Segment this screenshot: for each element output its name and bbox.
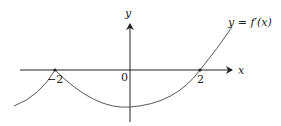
derivative-curve — [14, 27, 232, 107]
graph: y x −2 0 2 y = f′(x) — [0, 0, 281, 126]
tick-label-zero: 0 — [121, 71, 128, 84]
tick-label-pos2: 2 — [197, 73, 204, 86]
root-point-pos2 — [198, 68, 201, 71]
curve-label: y = f′(x) — [227, 16, 272, 29]
y-axis-label: y — [124, 7, 132, 20]
tick-label-neg2: −2 — [47, 73, 63, 86]
x-axis-label: x — [238, 64, 245, 77]
root-point-neg2 — [53, 68, 56, 71]
